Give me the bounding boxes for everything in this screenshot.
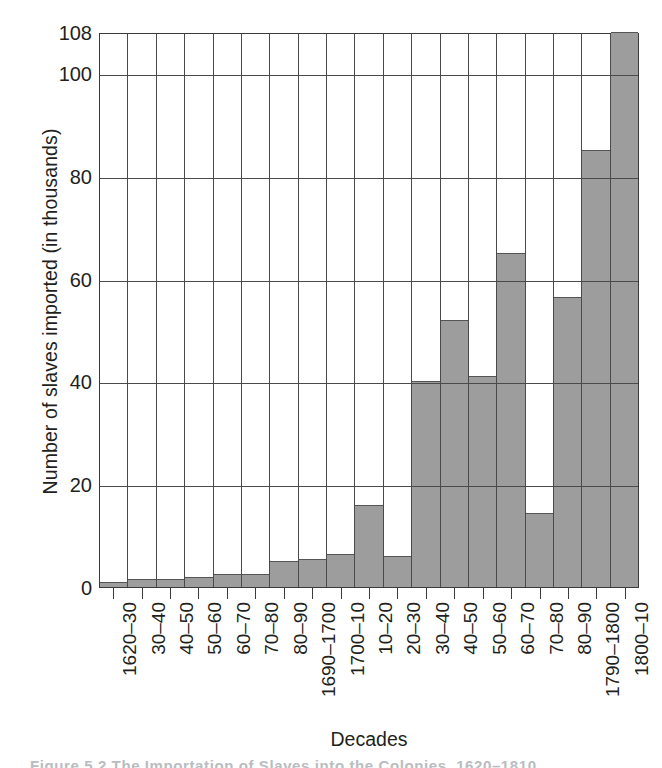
y-axis-tick-label: 60 — [70, 270, 92, 290]
y-axis-tick-label: 108 — [59, 23, 92, 43]
bar-column — [611, 34, 638, 587]
x-tick-cell: 1620–30 — [99, 588, 127, 718]
x-tick-mark — [625, 588, 626, 599]
x-tick-mark — [369, 588, 370, 599]
bar — [497, 253, 524, 587]
bar — [526, 513, 553, 588]
bar — [299, 559, 326, 587]
x-tick-cell: 50–60 — [184, 588, 212, 718]
y-axis-tick-label: 80 — [70, 167, 92, 187]
x-tick-mark — [312, 588, 313, 599]
y-axis-tick-labels: 020406080100108 — [0, 0, 100, 768]
bar — [582, 150, 609, 587]
bar — [128, 579, 155, 587]
bar-column — [299, 34, 327, 587]
x-tick-mark — [113, 588, 114, 599]
x-tick-cell: 60–70 — [213, 588, 241, 718]
bar-column — [128, 34, 156, 587]
x-axis-tick-label: 1800–10 — [632, 602, 651, 676]
bar-column — [497, 34, 525, 587]
bar-column — [441, 34, 469, 587]
bar — [412, 381, 439, 587]
x-tick-mark — [483, 588, 484, 599]
x-tick-cell: 20–30 — [383, 588, 411, 718]
y-axis-tick-label: 0 — [81, 578, 92, 598]
x-tick-mark — [341, 588, 342, 599]
bar-column — [384, 34, 412, 587]
y-axis-tick-label: 20 — [70, 475, 92, 495]
bar-column — [526, 34, 554, 587]
x-tick-cell: 1790–1800 — [582, 588, 610, 718]
plot-area — [99, 33, 639, 588]
x-tick-mark — [142, 588, 143, 599]
x-tick-cell: 40–50 — [440, 588, 468, 718]
bar-series — [100, 34, 638, 587]
x-tick-mark — [170, 588, 171, 599]
x-tick-cell: 70–80 — [241, 588, 269, 718]
x-axis-title: Decades — [99, 728, 639, 751]
x-tick-mark — [255, 588, 256, 599]
x-tick-cell: 1690–1700 — [298, 588, 326, 718]
bar-column — [355, 34, 383, 587]
x-tick-mark — [426, 588, 427, 599]
x-tick-cell: 80–90 — [270, 588, 298, 718]
bar-chart-figure: Number of slaves imported (in thousands)… — [0, 0, 662, 768]
bar-column — [157, 34, 185, 587]
bar — [157, 579, 184, 587]
y-axis-tick-label: 100 — [59, 64, 92, 84]
x-tick-mark — [511, 588, 512, 599]
x-tick-cell: 30–40 — [412, 588, 440, 718]
x-tick-cell: 40–50 — [156, 588, 184, 718]
bar — [327, 554, 354, 587]
bar — [469, 376, 496, 587]
x-axis-tick-labels: 1620–3030–4040–5050–6060–7070–8080–90169… — [99, 588, 639, 718]
x-tick-cell: 50–60 — [468, 588, 496, 718]
bar — [355, 505, 382, 587]
bar-column — [270, 34, 298, 587]
bar — [242, 574, 269, 587]
y-axis-tick-label: 40 — [70, 372, 92, 392]
x-tick-mark — [596, 588, 597, 599]
x-tick-cell: 60–70 — [497, 588, 525, 718]
bar-column — [214, 34, 242, 587]
bar-column — [469, 34, 497, 587]
bar — [185, 577, 212, 587]
x-tick-mark — [568, 588, 569, 599]
bar-column — [554, 34, 582, 587]
x-tick-cell: 1800–10 — [611, 588, 639, 718]
bar — [611, 32, 638, 587]
x-tick-cell: 30–40 — [127, 588, 155, 718]
bar-column — [327, 34, 355, 587]
bar-column — [100, 34, 128, 587]
bar — [214, 574, 241, 587]
bar — [100, 582, 127, 587]
bar — [270, 561, 297, 587]
bar-column — [412, 34, 440, 587]
bar-column — [185, 34, 213, 587]
x-tick-mark — [397, 588, 398, 599]
x-tick-cell: 80–90 — [554, 588, 582, 718]
x-tick-cell: 10–20 — [355, 588, 383, 718]
x-tick-cell: 1700–10 — [326, 588, 354, 718]
x-tick-mark — [198, 588, 199, 599]
bar — [554, 297, 581, 587]
bar — [384, 556, 411, 587]
bar — [441, 320, 468, 587]
x-tick-mark — [227, 588, 228, 599]
x-tick-mark — [540, 588, 541, 599]
bar-column — [582, 34, 610, 587]
x-tick-cell: 70–80 — [525, 588, 553, 718]
x-tick-mark — [454, 588, 455, 599]
figure-caption: Figure 5.2 The Importation of Slaves int… — [30, 757, 632, 768]
x-tick-mark — [284, 588, 285, 599]
bar-column — [242, 34, 270, 587]
